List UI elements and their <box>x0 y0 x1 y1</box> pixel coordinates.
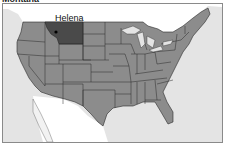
capital-dot-helena <box>54 30 57 33</box>
us-map: Helena <box>2 3 223 143</box>
capital-label: Helena <box>55 13 84 23</box>
us-map-svg <box>3 4 222 142</box>
